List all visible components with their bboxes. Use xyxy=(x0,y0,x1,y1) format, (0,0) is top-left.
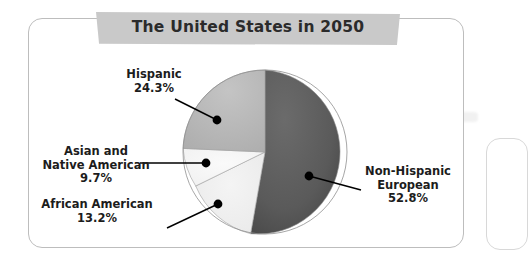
slice-label-african-american-name: African American xyxy=(41,197,152,211)
slice-label-non-hispanic-european-name1: Non-Hispanic xyxy=(365,164,451,178)
slice-label-non-hispanic-european-value: 52.8% xyxy=(356,192,460,206)
slice-label-hispanic-name: Hispanic xyxy=(126,67,181,81)
leader-dot-non-hispanic-european xyxy=(305,172,314,181)
slice-label-african-american: African American 13.2% xyxy=(30,198,164,225)
slice-label-asian-native-american-name1: Asian and xyxy=(64,144,128,158)
slice-label-hispanic: Hispanic 24.3% xyxy=(106,68,202,95)
slice-label-non-hispanic-european: Non-Hispanic European 52.8% xyxy=(356,165,460,206)
leader-dot-african-american xyxy=(214,200,223,209)
slice-label-asian-native-american: Asian and Native American 9.7% xyxy=(32,145,160,186)
slice-label-hispanic-value: 24.3% xyxy=(106,82,202,96)
slice-label-african-american-value: 13.2% xyxy=(30,212,164,226)
leader-dot-asian-native-american xyxy=(202,159,211,168)
leader-line-african-american xyxy=(167,204,218,228)
slice-label-asian-native-american-name2: Native American xyxy=(32,159,160,173)
slice-label-non-hispanic-european-name2: European xyxy=(356,179,460,193)
leader-dot-hispanic xyxy=(213,116,222,125)
slice-label-asian-native-american-value: 9.7% xyxy=(32,172,160,186)
